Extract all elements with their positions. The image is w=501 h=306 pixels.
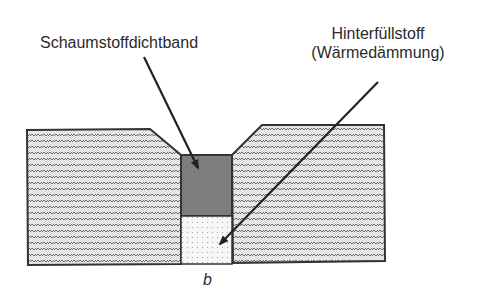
backfill-label-line2: (Wärmedämmung) <box>311 43 444 62</box>
seal-tape-label: Schaumstoffdichtband <box>40 33 198 52</box>
backfill-label-line1: Hinterfüllstoff <box>311 24 444 43</box>
foam-seal-tape <box>181 155 232 216</box>
left-wall-block <box>27 129 181 265</box>
joint-width-label: b <box>203 270 212 289</box>
backfill-label: Hinterfüllstoff (Wärmedämmung) <box>311 24 444 62</box>
right-wall-block <box>232 125 385 263</box>
